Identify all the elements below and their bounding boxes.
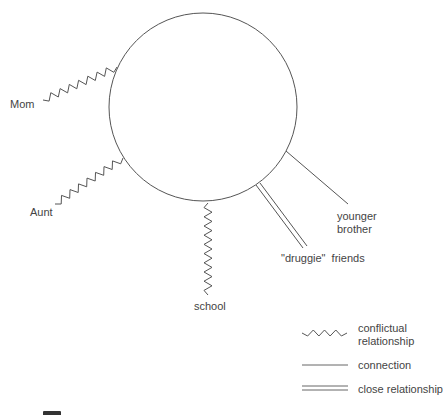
younger-brother-label-line2: brother — [337, 222, 372, 236]
druggie-friends-close-line — [256, 183, 307, 248]
druggie-friends-label: "druggie" friends — [281, 251, 365, 265]
zigzag-path — [302, 330, 347, 336]
legend-connection-label: connection — [358, 358, 411, 372]
center-circle — [109, 13, 297, 201]
aunt-conflictual-line — [55, 158, 123, 204]
mom-conflictual-line — [43, 67, 117, 101]
legend-conflictual-label-line1: conflictual — [358, 321, 407, 335]
cropped-text-fragment — [43, 411, 61, 415]
legend-conflictual-label-line2: relationship — [358, 334, 414, 348]
mom-label: Mom — [10, 97, 34, 111]
zigzag-path — [204, 203, 212, 295]
legend-conflictual-symbol — [302, 330, 347, 336]
legend-close-label: close relationship — [358, 382, 443, 396]
school-label: school — [194, 299, 226, 313]
younger-brother-connection-line — [286, 151, 348, 204]
legend-close-symbol — [302, 386, 348, 390]
aunt-label: Aunt — [30, 205, 53, 219]
zigzag-path — [43, 67, 117, 101]
school-conflictual-line — [204, 203, 212, 295]
zigzag-path — [55, 158, 123, 204]
younger-brother-label-line1: younger — [337, 209, 377, 223]
